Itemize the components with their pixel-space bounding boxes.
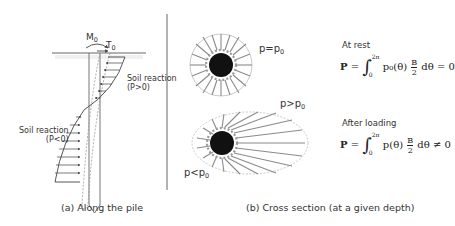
less-pressure-sub: 0	[205, 172, 209, 180]
less-pressure-text: p<p	[184, 167, 205, 178]
cross-section-loaded	[192, 112, 308, 174]
cross-section-rest	[190, 34, 252, 96]
less-pressure-label: p<p0	[184, 167, 209, 180]
rest-lhs: P	[340, 61, 348, 72]
rest-pressure-text: p=p	[259, 43, 280, 54]
rest-fraction: B2	[411, 58, 417, 77]
soil-reaction-lower	[55, 110, 84, 182]
rest-lower-limit: 0	[369, 71, 373, 78]
moment-arrow-icon	[86, 44, 108, 48]
soil-reaction-negative-cond: (P<0)	[19, 135, 69, 144]
rest-rhs: dθ = 0	[421, 61, 455, 72]
loading-fraction: B2	[407, 136, 413, 155]
greater-pressure-text: p>p	[280, 98, 301, 109]
caption-b: (b) Cross section (at a given depth)	[246, 202, 414, 213]
rest-integrand: p₀(θ)	[383, 61, 407, 72]
pile-deflected	[82, 53, 110, 210]
loading-integrand: p(θ)	[383, 139, 403, 150]
loading-upper-limit: 2π	[372, 131, 380, 138]
greater-pressure-sub: 0	[301, 103, 305, 111]
loading-numerator: B	[407, 136, 413, 146]
shear-subscript: 0	[112, 44, 116, 52]
moment-label: M0	[86, 32, 98, 44]
rest-pressure-label: p=p0	[259, 43, 284, 56]
rest-equation: P = ∫ 2π 0 p₀(θ) B2 dθ = 0	[340, 53, 455, 77]
rest-denominator: 2	[411, 68, 417, 77]
soil-reaction-positive-label: Soil reaction (P>0)	[127, 74, 177, 92]
soil-reaction-negative-label: Soil reaction (P<0)	[19, 126, 69, 144]
rest-numerator: B	[411, 58, 417, 68]
soil-reaction-upper	[84, 57, 125, 110]
soil-reaction-negative-text: Soil reaction	[19, 126, 69, 135]
caption-a: (a) Along the pile	[61, 202, 143, 213]
moment-symbol: M	[86, 32, 94, 42]
rest-title: At rest	[342, 41, 370, 51]
loading-denominator: 2	[407, 146, 413, 155]
soil-reaction-positive-text: Soil reaction	[127, 74, 177, 83]
rest-upper-limit: 2π	[372, 53, 380, 60]
pile-core-icon	[209, 53, 233, 77]
pile-core-icon	[210, 131, 234, 155]
greater-pressure-label: p>p0	[280, 98, 305, 111]
moment-subscript: 0	[94, 36, 98, 44]
loading-title: After loading	[342, 119, 396, 129]
soil-reaction-positive-cond: (P>0)	[127, 83, 177, 92]
rest-pressure-sub: 0	[280, 48, 284, 56]
shear-label: T0	[106, 40, 116, 52]
loading-lower-limit: 0	[369, 149, 373, 156]
loading-rhs: dθ ≠ 0	[417, 139, 451, 150]
loading-equation: P = ∫ 2π 0 p(θ) B2 dθ ≠ 0	[340, 131, 451, 155]
loading-lhs: P	[340, 139, 348, 150]
